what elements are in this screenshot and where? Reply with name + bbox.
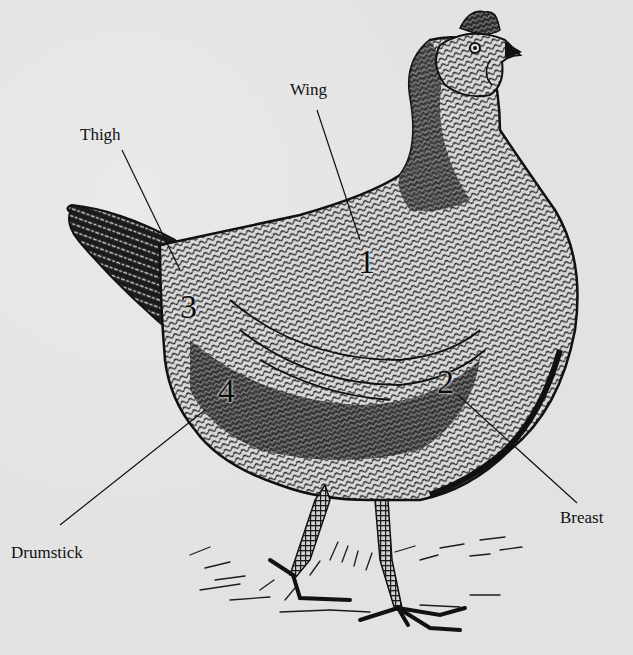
ground-hatching <box>190 537 522 612</box>
label-breast: Breast <box>560 508 603 528</box>
label-drumstick: Drumstick <box>11 543 83 563</box>
label-thigh: Thigh <box>80 125 121 145</box>
drumstick-leader <box>60 410 205 525</box>
number-wing: 1 <box>358 243 375 281</box>
number-breast: 2 <box>437 363 454 401</box>
head <box>436 11 522 96</box>
number-drumstick: 4 <box>218 372 235 410</box>
number-thigh: 3 <box>180 288 197 326</box>
legs <box>270 485 465 630</box>
label-wing: Wing <box>290 80 327 100</box>
diagram-canvas: Wing Thigh Breast Drumstick 1 2 3 4 <box>0 0 633 655</box>
